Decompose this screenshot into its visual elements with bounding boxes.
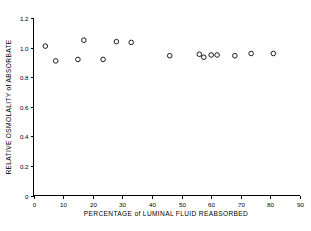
scatter-plot-figure: 00.20.40.60.81.01.2 0102030405060708090 …: [0, 0, 311, 231]
axes-group: [34, 18, 301, 196]
x-tick-label: 70: [238, 201, 245, 208]
data-point-marker: [215, 53, 220, 58]
y-tick-label: 1.0: [20, 45, 29, 52]
x-axis-title: PERCENTAGE of LUMINAL FLUID REABSORBED: [84, 210, 248, 217]
data-point-marker: [82, 38, 87, 43]
plot-canvas: 00.20.40.60.81.01.2 0102030405060708090 …: [0, 0, 311, 231]
y-tick-label: 0.6: [20, 104, 29, 111]
x-tick-label: 50: [179, 201, 186, 208]
y-tick-label: 1.2: [20, 15, 29, 22]
x-tick-label: 60: [208, 201, 215, 208]
y-tick-label: 0.2: [20, 163, 29, 170]
data-point-marker: [101, 57, 106, 62]
x-tick-label: 80: [267, 201, 274, 208]
x-axis-ticks: 0102030405060708090: [33, 196, 305, 208]
x-tick-label: 40: [149, 201, 156, 208]
data-point-marker: [76, 57, 81, 62]
data-point-marker: [233, 53, 238, 58]
data-point-marker: [53, 59, 58, 64]
y-axis-title: RELATIVE OSMOLALITY of ABSORBATE: [5, 39, 12, 174]
data-point-marker: [167, 53, 172, 58]
y-tick-label: 0.8: [20, 74, 29, 81]
data-point-marker: [129, 40, 134, 45]
x-tick-label: 20: [90, 201, 97, 208]
data-point-marker: [43, 44, 48, 49]
data-point-marker: [114, 39, 119, 44]
data-points-group: [43, 38, 276, 63]
x-tick-label: 30: [119, 201, 126, 208]
data-point-marker: [197, 52, 202, 57]
data-point-marker: [271, 51, 276, 56]
data-point-marker: [249, 51, 254, 56]
x-tick-label: 10: [60, 201, 67, 208]
y-tick-label: 0.4: [20, 133, 29, 140]
y-tick-label: 0: [25, 193, 29, 200]
x-tick-label: 90: [297, 201, 304, 208]
data-point-marker: [209, 53, 214, 58]
x-tick-label: 0: [33, 201, 37, 208]
data-point-marker: [201, 55, 206, 60]
y-axis-ticks: 00.20.40.60.81.01.2: [20, 15, 34, 200]
